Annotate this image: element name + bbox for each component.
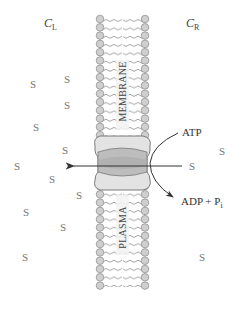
solute-left: S: [49, 174, 55, 185]
solute-left: S: [23, 207, 29, 218]
adp-pi-label: ADP + Pi: [181, 196, 223, 211]
solute-left: S: [76, 190, 82, 201]
left-c-subscript: L: [52, 23, 57, 32]
right-c-subscript: R: [194, 23, 199, 32]
adp-pi-text: ADP + P: [181, 195, 220, 207]
solute-right: S: [189, 161, 195, 172]
left-concentration-label: CL: [44, 16, 57, 32]
active-transport-diagram: CL CR MEMBRANE PLASMA ATP ADP + Pi SSSSS…: [0, 0, 242, 333]
solute-left: S: [64, 74, 70, 85]
solute-left: S: [62, 145, 68, 156]
atp-label: ATP: [182, 127, 202, 138]
solute-left: S: [60, 222, 66, 233]
solute-left: S: [30, 79, 36, 90]
plasma-label: PLASMA: [117, 206, 128, 250]
solute-left: S: [14, 161, 20, 172]
membrane-label: MEMBRANE: [117, 70, 128, 122]
solute-right: S: [219, 146, 225, 157]
membrane-graphic: [0, 0, 242, 333]
pi-subscript: i: [220, 201, 222, 210]
solute-left: S: [64, 100, 70, 111]
atp-hydrolysis-arrow: [150, 133, 178, 197]
solute-left: S: [22, 252, 28, 263]
solute-left: S: [33, 122, 39, 133]
right-c-symbol: C: [186, 16, 194, 30]
left-c-symbol: C: [44, 16, 52, 30]
transport-protein: [95, 136, 151, 190]
solute-right: S: [199, 252, 205, 263]
right-concentration-label: CR: [186, 16, 199, 32]
